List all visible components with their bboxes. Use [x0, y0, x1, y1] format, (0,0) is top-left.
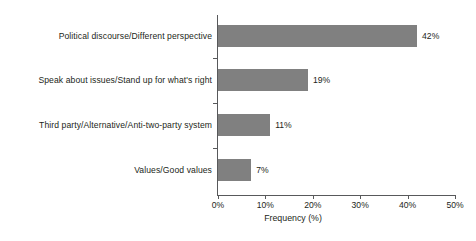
x-tick-label-5: 50%: [446, 200, 463, 210]
x-tick-1: [265, 195, 266, 199]
x-tick-label-0: 0%: [212, 200, 224, 210]
x-tick-0: [218, 195, 219, 199]
bar-2: [218, 114, 270, 136]
x-tick-2: [313, 195, 314, 199]
bar-0: [218, 25, 417, 47]
category-label-0: Political discourse/Different perspectiv…: [59, 31, 212, 41]
bar-3: [218, 159, 251, 181]
category-tick-2: [213, 148, 218, 149]
bar-value-0: 42%: [422, 31, 439, 41]
x-tick-label-4: 40%: [399, 200, 416, 210]
x-axis-title-wrap: Frequency (%): [0, 213, 476, 224]
bar-1: [218, 69, 308, 91]
x-tick-5: [455, 195, 456, 199]
x-tick-4: [408, 195, 409, 199]
category-label-2: Third party/Alternative/Anti-two-party s…: [39, 120, 212, 130]
x-tick-label-1: 10%: [257, 200, 274, 210]
bar-value-2: 11%: [275, 120, 292, 130]
bar-value-3: 7%: [256, 165, 268, 175]
x-axis-title: Frequency (%): [264, 213, 322, 224]
category-tick-0: [213, 58, 218, 59]
x-tick-3: [360, 195, 361, 199]
x-tick-label-3: 30%: [352, 200, 369, 210]
category-label-3: Values/Good values: [134, 165, 212, 175]
bar-chart: Political discourse/Different perspectiv…: [0, 0, 476, 241]
x-tick-label-2: 20%: [304, 200, 321, 210]
category-label-1: Speak about issues/Stand up for what's r…: [38, 75, 212, 85]
category-axis-line: [218, 195, 456, 196]
category-tick-1: [213, 103, 218, 104]
bar-value-1: 19%: [313, 75, 330, 85]
